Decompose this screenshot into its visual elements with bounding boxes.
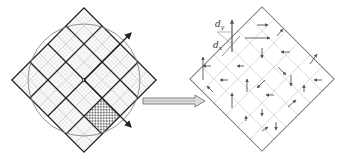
diagram-canvas: dy dx bbox=[0, 0, 343, 160]
dxdy-callout: dy dx bbox=[213, 19, 240, 56]
transition-arrow-icon bbox=[143, 95, 205, 107]
vector-grid bbox=[190, 7, 334, 151]
right-vector-panel: dy dx bbox=[190, 7, 334, 151]
displacement-vectors bbox=[203, 25, 322, 131]
dy-label: dy bbox=[215, 19, 225, 31]
left-grid-panel bbox=[12, 8, 156, 152]
dx-label: dx bbox=[213, 40, 223, 51]
